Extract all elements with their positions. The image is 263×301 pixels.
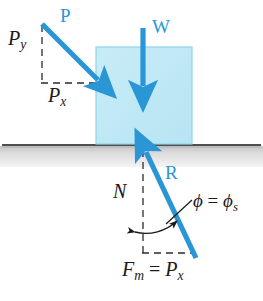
label-p-y-subscript: y — [20, 37, 26, 52]
label-p-y-component: Py — [8, 28, 26, 51]
label-p-x-base: P — [48, 84, 60, 106]
label-phi-s: ϕ — [223, 190, 233, 211]
label-normal-force-n: N — [113, 181, 126, 201]
label-reaction-r: R — [165, 163, 178, 182]
label-weight-w: W — [152, 17, 170, 36]
label-friction-angle-equation: ϕ = ϕs — [193, 191, 238, 214]
label-friction-rhs-subscript: x — [178, 268, 184, 283]
free-body-diagram: P W R Py Px N Fm = Px ϕ = ϕs — [0, 0, 263, 301]
label-p-y-base: P — [8, 27, 20, 49]
label-phi-s-subscript: s — [233, 199, 238, 214]
label-applied-force-p: P — [60, 6, 71, 25]
vector-p-arrow — [42, 24, 98, 80]
label-phi-equals: = — [203, 190, 223, 211]
label-p-x-component: Px — [48, 85, 66, 108]
label-friction-equals: = — [144, 258, 165, 280]
angle-arc — [135, 221, 177, 233]
label-p-x-subscript: x — [60, 94, 66, 109]
diagram-canvas — [0, 0, 263, 301]
ground-band — [0, 146, 263, 167]
label-friction-base: F — [122, 258, 134, 280]
label-friction-subscript: m — [134, 268, 144, 283]
label-phi: ϕ — [193, 190, 203, 211]
label-friction-rhs-base: P — [165, 258, 177, 280]
label-max-friction-equation: Fm = Px — [122, 259, 184, 282]
